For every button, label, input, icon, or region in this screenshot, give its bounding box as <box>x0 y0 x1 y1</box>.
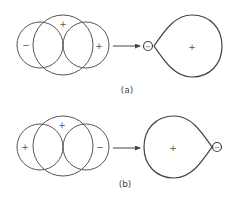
panel-b-label: (b) <box>119 179 132 189</box>
orbital-hybridization-diagram: − + + − + (a) + + − − + (b) <box>0 0 233 200</box>
orbital-middle-sign: + <box>58 120 66 130</box>
orbital-middle-sign: + <box>59 19 67 29</box>
hybrid-orbital-a <box>144 15 223 77</box>
panel-a-label: (a) <box>121 85 134 95</box>
panel-b: + + − − + (b) <box>17 116 222 189</box>
orbital-right-sign: + <box>95 41 103 51</box>
large-lobe-teardrop <box>144 116 212 178</box>
hybrid-orbital-b <box>144 116 222 178</box>
orbital-right-sign: − <box>96 142 104 152</box>
large-lobe-sign: + <box>169 143 177 153</box>
small-lobe-sign: − <box>145 43 151 51</box>
panel-a: − + + − + (a) <box>17 15 222 95</box>
large-lobe-sign: + <box>188 42 196 52</box>
small-lobe-sign: − <box>214 144 220 152</box>
orbital-left-sign: − <box>22 40 30 50</box>
orbital-left-sign: + <box>21 142 29 152</box>
